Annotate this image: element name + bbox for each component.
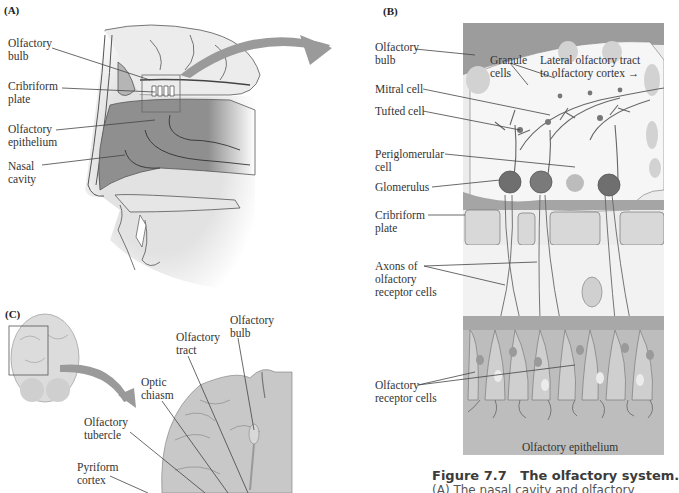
label-b-olfactory-bulb: Olfactory bulb (375, 41, 419, 67)
label-c-olfactory-tubercle: Olfactory tubercle (84, 416, 128, 442)
label-b-olfactory-epithelium: Olfactory epithelium (522, 441, 618, 454)
panel-c-tag: (C) (5, 308, 20, 320)
panel-b-tag: (B) (383, 5, 398, 17)
label-b-tufted-cell: Tufted cell (375, 105, 425, 118)
label-b-olfactory-receptor-cells: Olfactory receptor cells (375, 379, 437, 405)
figure-caption-title: Figure 7.7 The olfactory system. (432, 468, 679, 483)
label-b-granule-cells: Granule cells (490, 54, 527, 80)
label-b-mitral-cell: Mitral cell (375, 83, 423, 96)
label-a-nasal-cavity: Nasal cavity (8, 160, 36, 186)
label-b-glomerulus: Glomerulus (375, 181, 429, 194)
label-c-olfactory-bulb: Olfactory bulb (230, 314, 274, 340)
label-c-pyriform-cortex: Pyriform cortex (77, 461, 119, 487)
figure-caption-body: (A) The nasal cavity and olfactory (432, 484, 635, 493)
label-c-olfactory-tract: Olfactory tract (176, 331, 220, 357)
label-a-olfactory-epithelium: Olfactory epithelium (8, 123, 57, 149)
label-a-cribriform-plate: Cribriform plate (8, 80, 58, 106)
figure-number: Figure 7.7 (432, 468, 507, 483)
label-c-optic-chiasm: Optic chiasm (141, 376, 174, 402)
label-b-cribriform-plate: Cribriform plate (375, 209, 425, 235)
label-b-periglomerular-cell: Periglomerular cell (375, 148, 444, 174)
figure-title: The olfactory system. (520, 468, 679, 483)
label-a-olfactory-bulb: Olfactory bulb (8, 37, 52, 63)
label-b-lateral-olfactory-tract: Lateral olfactory tract to olfactory cor… (540, 54, 640, 80)
label-b-axons-receptor-cells: Axons of olfactory receptor cells (375, 260, 437, 299)
